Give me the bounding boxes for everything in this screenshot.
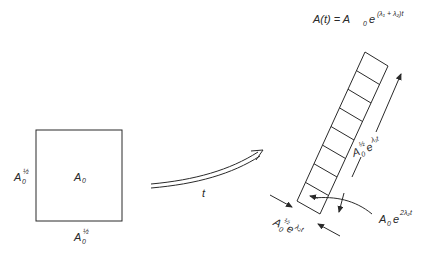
square-center-sub: 0 (82, 177, 86, 184)
transform-arrow-line-bottom (151, 156, 260, 188)
long-side-arrow-lower (352, 157, 361, 177)
long-sub: 0 (360, 150, 366, 158)
bottom-sub: 0 (82, 238, 86, 245)
area-exp: 2λ₂t (399, 209, 413, 216)
strip-cell-divider (323, 145, 346, 158)
area-e: e (393, 213, 399, 225)
long-side-label: A 0 ½ e λ₁t (348, 134, 384, 161)
bottom-sup: ½ (83, 228, 89, 235)
bottom-A: A (73, 231, 81, 243)
formula-exponent: (λ₁ + λ₂)t (377, 10, 404, 18)
formula: A(t) = A 0 e (λ₁ + λ₂)t (312, 10, 404, 27)
formula-e: e (369, 13, 375, 25)
long-side-arrow-down (339, 193, 344, 212)
strip-cell-divider (306, 182, 329, 195)
left-sup: ½ (23, 168, 29, 175)
square-center-label: A 0 (73, 171, 86, 184)
area-A: A (378, 213, 386, 225)
short-side-arrow-right (318, 224, 340, 236)
formula-sub: 0 (363, 20, 367, 27)
left-sub: 0 (22, 178, 26, 185)
area-leader-line (314, 198, 372, 214)
strip-cell-divider (348, 89, 371, 103)
tilted-strip (297, 52, 388, 214)
formula-lhs: A(t) = A (312, 13, 350, 25)
strip-cell-divider (314, 164, 337, 177)
diagram-canvas: A(t) = A 0 e (λ₁ + λ₂)t A 0 A 0 ½ A 0 ½ … (0, 0, 440, 259)
transform-arrow: t (151, 150, 263, 199)
square-bottom-label: A 0 ½ (73, 228, 89, 245)
area-label: A 0 e 2λ₂t (378, 209, 413, 227)
short-side-label: A 0 ½ e λ₂t (270, 213, 306, 242)
left-A: A (13, 171, 21, 183)
long-side-arrow (376, 74, 401, 132)
strip-cell-divider (357, 71, 380, 85)
square-left-label: A 0 ½ (13, 168, 29, 185)
square-center-A: A (73, 171, 81, 183)
transform-arrow-label: t (202, 187, 206, 199)
area-sub: 0 (387, 220, 391, 227)
strip-cell-divider (331, 127, 354, 141)
diagram-svg: A(t) = A 0 e (λ₁ + λ₂)t A 0 A 0 ½ A 0 ½ … (0, 0, 440, 259)
strip-cell-divider (340, 108, 363, 122)
short-side-arrow-left (270, 195, 292, 207)
